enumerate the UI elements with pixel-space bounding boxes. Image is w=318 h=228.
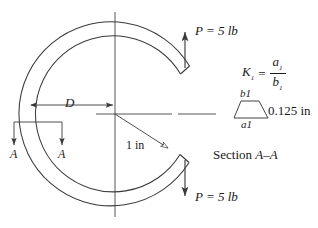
force-label-top: P = 5 lb bbox=[195, 24, 238, 37]
radius-label: 1 in bbox=[126, 139, 144, 151]
dimension-label-D: D bbox=[65, 96, 74, 109]
engineering-figure: P = 5 lb P = 5 lb D A A 1 in K1 = a1 b1 … bbox=[0, 0, 318, 228]
formula-lhs: K1 bbox=[242, 65, 254, 82]
force-label-bottom: P = 5 lb bbox=[195, 190, 238, 203]
section-arrow-label-left: A bbox=[10, 148, 17, 160]
thickness-label: 0.125 in bbox=[268, 104, 311, 117]
formula-numerator: a1 bbox=[270, 55, 286, 72]
force-label-bottom-text: P = 5 lb bbox=[195, 189, 238, 204]
formula-denominator: b1 bbox=[270, 75, 286, 92]
section-caption: Section A–A bbox=[213, 148, 278, 161]
formula-equals: = bbox=[258, 67, 265, 80]
section-caption-prefix: Section bbox=[213, 147, 255, 162]
force-label-top-text: P = 5 lb bbox=[195, 23, 238, 38]
section-arrow-label-right: A bbox=[58, 148, 65, 160]
cross-section-top-label: b1 bbox=[240, 88, 251, 99]
cross-section-trapezoid bbox=[234, 101, 268, 118]
cross-section-bottom-label: a1 bbox=[241, 119, 252, 130]
formula-fraction: a1 b1 bbox=[270, 55, 286, 91]
section-caption-marks: A–A bbox=[255, 147, 277, 162]
stress-factor-formula: K1 = a1 b1 bbox=[242, 55, 286, 91]
